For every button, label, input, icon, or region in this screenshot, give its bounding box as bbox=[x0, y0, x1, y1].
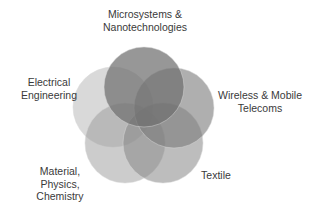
label-line: Material, bbox=[32, 165, 88, 178]
label-line: Wireless & Mobile bbox=[212, 89, 308, 102]
label-line: Engineering bbox=[14, 89, 84, 102]
label-line: Chemistry bbox=[32, 190, 88, 203]
label-line: Nanotechnologies bbox=[100, 21, 190, 34]
label-line: Physics, bbox=[32, 178, 88, 191]
label-line: Microsystems & bbox=[100, 8, 190, 21]
label-electrical: Electrical Engineering bbox=[14, 76, 84, 101]
label-line: Textile bbox=[198, 169, 234, 182]
label-microsystems: Microsystems & Nanotechnologies bbox=[100, 8, 190, 33]
label-wireless: Wireless & Mobile Telecoms bbox=[212, 89, 308, 114]
label-line: Telecoms bbox=[212, 102, 308, 115]
label-material: Material, Physics, Chemistry bbox=[32, 165, 88, 203]
label-textile: Textile bbox=[198, 169, 234, 182]
label-line: Electrical bbox=[14, 76, 84, 89]
circle-microsystems bbox=[104, 47, 184, 127]
